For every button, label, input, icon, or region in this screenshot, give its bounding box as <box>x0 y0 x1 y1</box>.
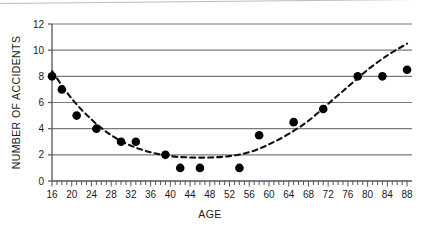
data-point <box>176 164 185 173</box>
data-point <box>72 111 81 120</box>
data-point <box>289 118 298 127</box>
y-tick-label: 6 <box>38 97 44 108</box>
y-tick-label: 10 <box>33 45 45 56</box>
x-tick-label: 60 <box>263 189 275 200</box>
x-axis-title: AGE <box>198 208 221 220</box>
x-tick-label: 88 <box>402 189 414 200</box>
x-tick-label: 44 <box>185 189 197 200</box>
x-tick-label: 56 <box>244 189 256 200</box>
data-point <box>319 105 328 114</box>
data-point <box>161 151 170 160</box>
data-point <box>196 164 205 173</box>
data-point <box>255 131 264 140</box>
y-axis-title: NUMBER OF ACCIDENTS <box>10 36 22 170</box>
x-axis-tick-labels: 16202428323640444852566064687276808488 <box>46 189 413 200</box>
data-point <box>235 164 244 173</box>
x-tick-label: 72 <box>323 189 335 200</box>
data-point <box>58 85 67 94</box>
x-tick-label: 20 <box>66 189 78 200</box>
x-tick-label: 76 <box>342 189 354 200</box>
y-axis-tick-labels: 024681012 <box>33 19 45 187</box>
data-point <box>378 72 387 81</box>
x-tick-label: 64 <box>283 189 295 200</box>
grid-lines <box>52 24 412 155</box>
x-tick-label: 32 <box>125 189 137 200</box>
x-tick-label: 40 <box>165 189 177 200</box>
x-axis-minor-ticks <box>52 181 407 187</box>
x-tick-label: 68 <box>303 189 315 200</box>
y-tick-label: 0 <box>38 176 44 187</box>
y-tick-label: 4 <box>38 123 44 134</box>
x-tick-label: 80 <box>362 189 374 200</box>
data-point <box>132 137 141 146</box>
data-point <box>48 72 57 81</box>
chart-canvas: 16202428323640444852566064687276808488 0… <box>0 0 421 225</box>
x-tick-label: 16 <box>46 189 58 200</box>
data-point <box>353 72 362 81</box>
scatter-chart: 16202428323640444852566064687276808488 0… <box>0 0 421 225</box>
trend-curve-path <box>52 44 407 158</box>
x-tick-label: 28 <box>106 189 118 200</box>
y-tick-label: 2 <box>38 149 44 160</box>
y-tick-label: 8 <box>38 71 44 82</box>
x-tick-label: 84 <box>382 189 394 200</box>
x-tick-label: 52 <box>224 189 236 200</box>
data-point <box>403 65 412 74</box>
data-point <box>92 124 101 133</box>
x-tick-label: 36 <box>145 189 157 200</box>
trend-curve <box>52 44 407 158</box>
data-point <box>117 137 126 146</box>
y-tick-label: 12 <box>33 19 45 30</box>
x-tick-label: 24 <box>86 189 98 200</box>
x-tick-label: 48 <box>204 189 216 200</box>
